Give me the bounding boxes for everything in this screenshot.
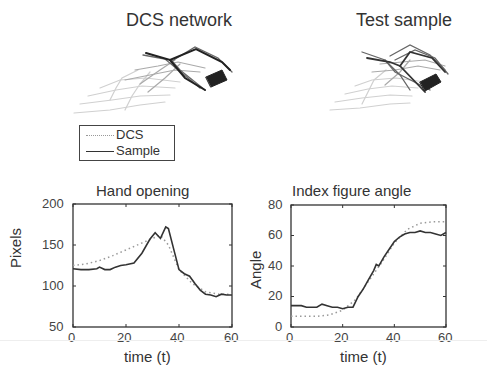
plot-frame (73, 204, 232, 327)
series-line-sample (73, 227, 232, 297)
plot-area (0, 0, 487, 391)
series-line-dcs (291, 222, 446, 317)
series-line-sample (291, 231, 446, 309)
series-line-dcs (73, 235, 232, 294)
plot-frame (291, 205, 446, 327)
